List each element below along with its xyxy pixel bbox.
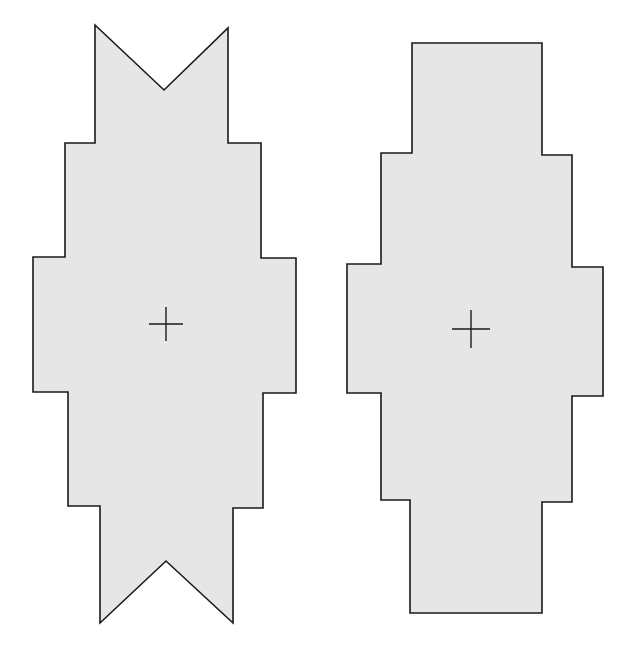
figure-canvas — [0, 0, 634, 651]
left-shape-group — [33, 25, 296, 623]
right-shape-group — [347, 43, 603, 613]
right-flat-shape — [347, 43, 603, 613]
